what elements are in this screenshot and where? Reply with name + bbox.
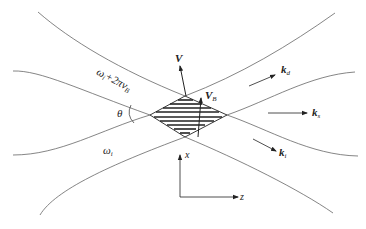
right-lower-curve (227, 115, 358, 156)
k-s-label: ks (312, 107, 320, 120)
k-d-subscript: d (287, 69, 291, 77)
k-i-subscript: i (285, 152, 287, 160)
omega-symbol: ω (103, 144, 111, 156)
velocity-label: V (175, 53, 182, 64)
k-d-arrow (249, 75, 275, 86)
k-i-arrow (253, 139, 276, 151)
right-upper-curve (227, 72, 355, 115)
scattering-diagram: ωi+2πvB ωi θ V VB kd ks ki x z (0, 0, 366, 229)
k-s-subscript: s (318, 112, 321, 120)
k-i-label: ki (279, 147, 286, 160)
x-axis-label: x (185, 150, 189, 160)
left-lower-curve (13, 115, 150, 155)
velocity-b-label: VB (205, 90, 217, 103)
velocity-b-subscript: B (212, 95, 216, 103)
k-d-label: kd (281, 64, 290, 77)
velocity-symbol: V (175, 52, 182, 64)
lower-right-outer-curve (185, 137, 333, 213)
theta-label: θ (117, 108, 122, 119)
diamond-hatching (154, 100, 222, 133)
velocity-arrow (180, 66, 186, 96)
z-axis-label: z (240, 192, 244, 202)
omega-subscript: i (111, 150, 113, 158)
lower-region-label: ωi (103, 145, 113, 158)
upper-right-outer-curve (185, 13, 335, 96)
